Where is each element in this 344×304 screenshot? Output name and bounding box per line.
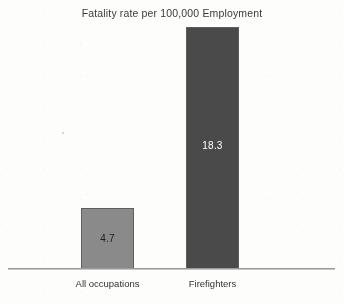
bar-chart-figure: Fatality rate per 100,000 Employment 4.7… (0, 0, 344, 304)
x-axis-label-firefighters: Firefighters (144, 278, 281, 289)
bar-group-all-occupations: 4.7 All occupations (81, 208, 134, 269)
x-axis-line (8, 268, 335, 270)
bar-value-label-all-occupations: 4.7 (81, 233, 134, 244)
plot-area: 4.7 All occupations 18.3 Firefighters (0, 0, 344, 304)
scan-artifact-speck (62, 132, 64, 134)
bar-value-label-firefighters: 18.3 (186, 140, 239, 151)
bar-group-firefighters: 18.3 Firefighters (186, 27, 239, 269)
